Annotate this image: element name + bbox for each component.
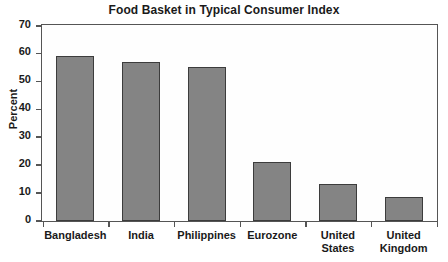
x-tick-mark <box>305 222 307 227</box>
chart-title: Food Basket in Typical Consumer Index <box>0 3 448 17</box>
bar-chart: Food Basket in Typical Consumer Index Pe… <box>0 0 448 262</box>
x-tick-mark <box>108 222 110 227</box>
x-axis-labels: BangladeshIndiaPhilippinesEurozoneUnited… <box>43 229 437 261</box>
x-tick-mark <box>43 222 45 227</box>
bar-slot <box>108 26 174 221</box>
y-tick-label: 70 <box>19 18 31 30</box>
bar-slot <box>305 26 371 221</box>
y-tick-mark <box>36 109 41 111</box>
y-tick-label: 20 <box>19 157 31 169</box>
x-tick-label: Eurozone <box>240 229 306 242</box>
bar[interactable] <box>385 197 423 221</box>
y-tick-mark <box>36 25 41 27</box>
x-tick-mark <box>240 222 242 227</box>
x-tick-mark <box>174 222 176 227</box>
x-tick-label: United States <box>305 229 371 255</box>
bar[interactable] <box>253 162 291 221</box>
y-tick-mark <box>36 192 41 194</box>
y-tick-label: 40 <box>19 101 31 113</box>
bar-slot <box>240 26 306 221</box>
bar[interactable] <box>319 184 357 220</box>
y-tick-label: 10 <box>19 185 31 197</box>
y-tick-label: 30 <box>19 129 31 141</box>
y-tick-mark <box>36 220 41 222</box>
y-tick-mark <box>36 53 41 55</box>
x-tick-label: Philippines <box>174 229 240 242</box>
x-tick-label: United Kingdom <box>371 229 437 255</box>
y-tick-mark <box>36 81 41 83</box>
y-tick-mark <box>36 136 41 138</box>
bar-slot <box>371 26 437 221</box>
bar[interactable] <box>188 67 226 220</box>
bar[interactable] <box>56 56 94 220</box>
bar-slot <box>43 26 109 221</box>
x-tick-label: India <box>108 229 174 242</box>
y-tick-label: 50 <box>19 73 31 85</box>
x-tick-label: Bangladesh <box>43 229 109 242</box>
y-tick-label: 0 <box>25 213 31 225</box>
bar-slot <box>174 26 240 221</box>
y-axis-label: Percent <box>7 69 19 149</box>
bars-layer <box>43 26 437 221</box>
bar[interactable] <box>122 62 160 221</box>
x-tick-mark <box>371 222 373 227</box>
y-tick-mark <box>36 164 41 166</box>
x-tick-mark <box>437 222 439 227</box>
y-tick-label: 60 <box>19 45 31 57</box>
